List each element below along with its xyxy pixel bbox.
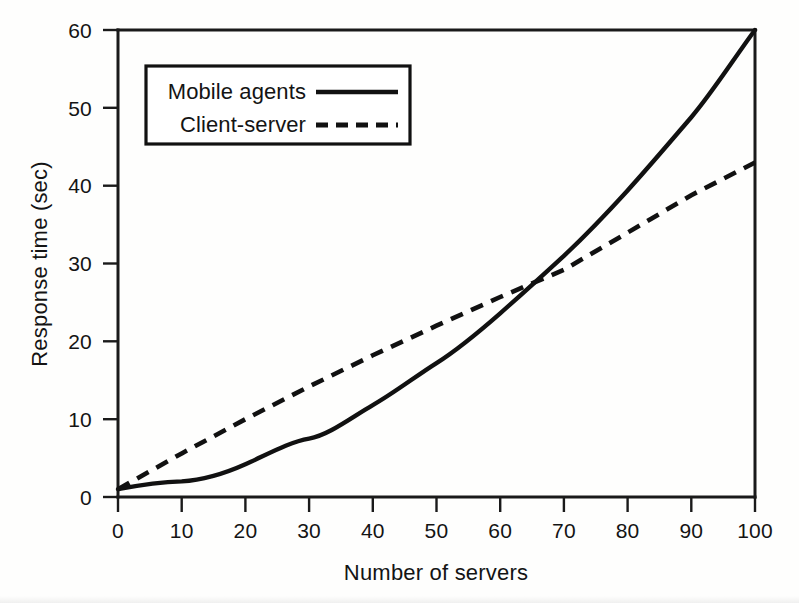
- x-axis-tick-labels: 0 10 20 30 40 50 60 70 80 90 100: [112, 519, 773, 542]
- y-tick-label-50: 50: [68, 97, 92, 120]
- legend[interactable]: Mobile agents Client-server: [146, 66, 410, 144]
- line-chart-canvas: 0 10 20 30 40 50 60 0 10 20 30: [0, 0, 799, 603]
- x-tick-label-100: 100: [737, 519, 773, 542]
- y-axis-ticks: [103, 30, 118, 497]
- chart-figure: 0 10 20 30 40 50 60 0 10 20 30: [0, 0, 799, 603]
- y-tick-label-10: 10: [68, 408, 92, 431]
- x-tick-label-40: 40: [361, 519, 385, 542]
- y-axis-tick-labels: 0 10 20 30 40 50 60: [68, 19, 92, 509]
- x-tick-label-80: 80: [616, 519, 640, 542]
- x-tick-label-50: 50: [425, 519, 449, 542]
- y-axis-title: Response time (sec): [27, 161, 52, 367]
- y-tick-label-0: 0: [80, 486, 92, 509]
- series-line-client-server: [118, 163, 755, 490]
- x-axis-title: Number of servers: [344, 560, 528, 585]
- y-tick-label-60: 60: [68, 19, 92, 42]
- x-tick-label-90: 90: [679, 519, 703, 542]
- y-tick-label-20: 20: [68, 330, 92, 353]
- x-tick-label-30: 30: [297, 519, 321, 542]
- x-tick-label-70: 70: [552, 519, 576, 542]
- x-tick-label-20: 20: [234, 519, 258, 542]
- x-tick-label-60: 60: [488, 519, 512, 542]
- legend-label-client-server: Client-server: [180, 112, 306, 137]
- legend-label-mobile-agents: Mobile agents: [168, 79, 306, 104]
- x-tick-label-0: 0: [112, 519, 124, 542]
- x-tick-label-10: 10: [170, 519, 194, 542]
- y-tick-label-30: 30: [68, 252, 92, 275]
- x-axis-ticks: [118, 497, 755, 512]
- y-tick-label-40: 40: [68, 174, 92, 197]
